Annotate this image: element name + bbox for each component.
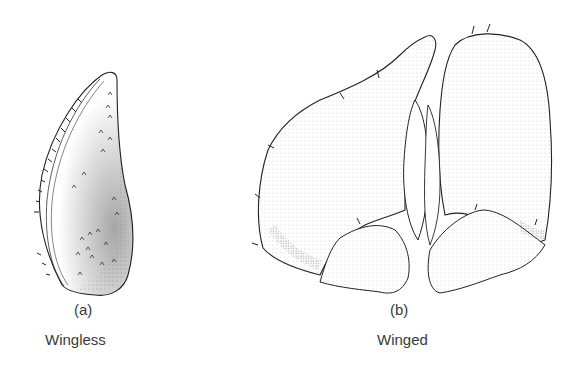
figure-a-marker: (a): [74, 301, 92, 318]
wingless-seed-drawing: [34, 72, 133, 295]
winged-seed-drawing: [252, 24, 552, 293]
seed-illustrations: [0, 0, 581, 377]
figure-b-caption: Winged: [377, 331, 428, 348]
figure-b-marker: (b): [390, 301, 408, 318]
figure-a-caption: Wingless: [45, 331, 106, 348]
